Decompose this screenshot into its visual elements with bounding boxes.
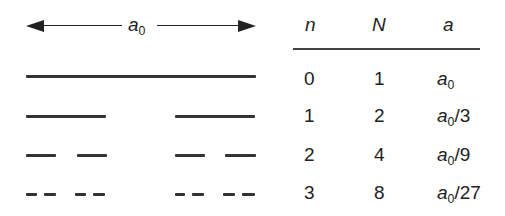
a-base: a xyxy=(437,68,448,89)
cell-a: a0/9 xyxy=(437,144,470,168)
cell-a: a0/3 xyxy=(437,105,470,129)
cantor-segment-level-1 xyxy=(175,115,255,118)
cell-a: a0 xyxy=(437,68,454,92)
cantor-segment-level-3 xyxy=(192,193,204,196)
a-subscript: 0 xyxy=(448,78,455,92)
cantor-segment-level-2 xyxy=(175,154,205,157)
cantor-segment-level-3 xyxy=(75,193,86,196)
cantor-segment-level-3 xyxy=(175,193,185,196)
label-base: a xyxy=(128,14,139,35)
arrow-right-icon xyxy=(238,20,256,32)
arrow-shaft-right xyxy=(157,25,241,26)
cantor-segment-level-3 xyxy=(93,193,105,196)
cell-n: 3 xyxy=(304,182,315,204)
a-base: a xyxy=(437,105,448,126)
label-subscript: 0 xyxy=(139,24,146,38)
header-N: N xyxy=(372,14,386,36)
cantor-segment-level-3 xyxy=(26,193,37,196)
header-rule xyxy=(293,48,480,50)
cantor-segment-level-3 xyxy=(44,193,56,196)
a-base: a xyxy=(437,144,448,165)
cell-N: 1 xyxy=(374,68,385,90)
cantor-segment-level-2 xyxy=(225,154,256,157)
cell-n: 0 xyxy=(304,68,315,90)
a-divisor: /3 xyxy=(454,105,470,126)
cell-N: 2 xyxy=(374,105,385,127)
arrow-left-icon xyxy=(26,20,44,32)
length-label-a0: a0 xyxy=(128,14,145,38)
a-base: a xyxy=(437,182,448,203)
cell-n: 2 xyxy=(304,144,315,166)
cantor-segment-level-3 xyxy=(242,193,255,196)
cell-N: 8 xyxy=(374,182,385,204)
cell-N: 4 xyxy=(374,144,385,166)
header-n: n xyxy=(305,14,316,36)
cantor-segment-level-2 xyxy=(26,154,56,157)
header-a: a xyxy=(443,14,454,36)
a-divisor: /9 xyxy=(454,144,470,165)
cantor-segment-level-0 xyxy=(26,75,256,78)
cell-a: a0/27 xyxy=(437,182,481,206)
cantor-segment-level-2 xyxy=(77,154,107,157)
cell-n: 1 xyxy=(304,105,315,127)
arrow-shaft-left xyxy=(40,25,122,26)
cantor-segment-level-3 xyxy=(223,193,235,196)
a-divisor: /27 xyxy=(454,182,480,203)
cantor-segment-level-1 xyxy=(26,115,106,118)
